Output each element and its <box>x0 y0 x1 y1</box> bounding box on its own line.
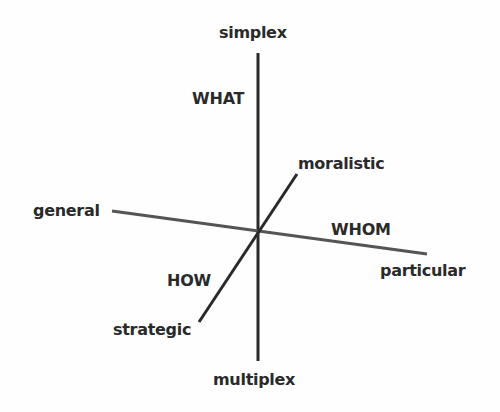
moralistic-label: moralistic <box>298 156 384 172</box>
strategic-label: strategic <box>113 322 191 338</box>
what-label: WHAT <box>192 91 244 107</box>
whom-label: WHOM <box>331 222 391 238</box>
general-label: general <box>33 203 100 219</box>
particular-label: particular <box>380 263 465 279</box>
diagonal-axis-line <box>199 174 297 322</box>
how-label: HOW <box>167 273 211 289</box>
simplex-label: simplex <box>219 25 287 41</box>
multiplex-label: multiplex <box>213 372 295 388</box>
three-axis-diagram: simplex WHAT moralistic general WHOM par… <box>0 0 500 412</box>
